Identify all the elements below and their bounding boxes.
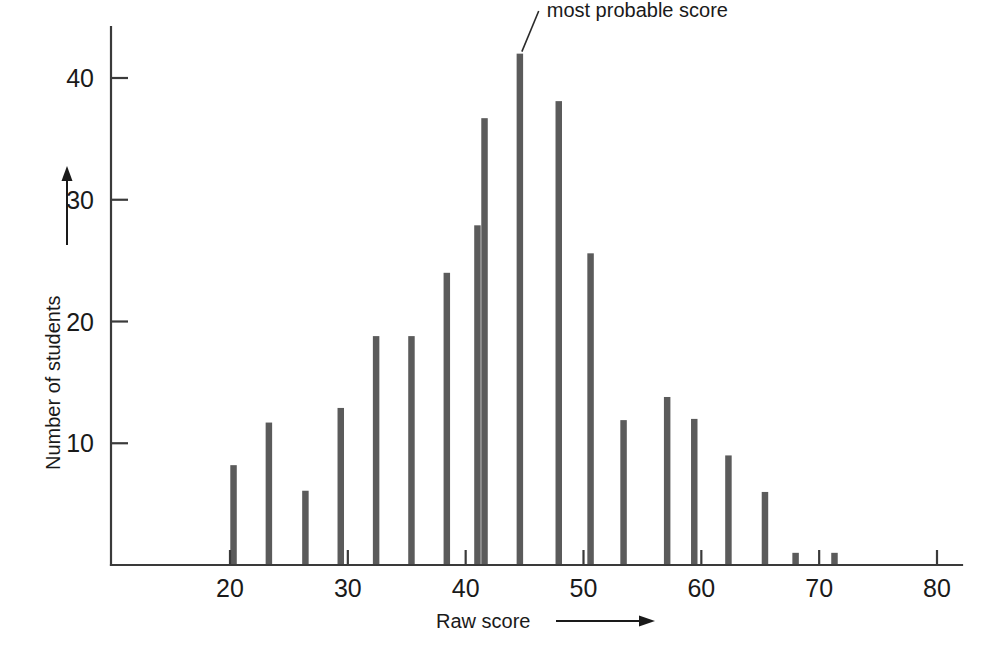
y-axis-label: Number of students — [42, 295, 64, 470]
y-tick-label: 40 — [66, 64, 94, 92]
annotation-most-probable-score: most probable score — [522, 0, 728, 52]
histogram-bar — [587, 253, 593, 565]
histogram-bar — [556, 101, 562, 565]
histogram-bar — [266, 423, 272, 565]
x-axis-label-group: Raw score — [436, 610, 655, 632]
y-tick-label: 30 — [66, 186, 94, 214]
x-tick-label: 40 — [452, 574, 480, 602]
x-tick-label: 60 — [687, 574, 715, 602]
axes — [111, 27, 962, 565]
annotation-label: most probable score — [547, 0, 728, 21]
histogram-bar — [481, 118, 487, 565]
bar-series — [230, 54, 837, 565]
histogram-bar — [444, 273, 450, 565]
y-tick-label: 20 — [66, 308, 94, 336]
histogram-bar — [831, 553, 837, 565]
histogram-bar — [474, 225, 480, 565]
y-tick-label: 10 — [66, 429, 94, 457]
y-axis-ticks: 10203040 — [66, 64, 128, 457]
histogram-bar — [338, 408, 344, 565]
annotation-leader-line — [522, 11, 539, 52]
histogram-bar — [230, 465, 236, 565]
histogram-plot: 10203040 20304050607080 most probable sc… — [0, 0, 1003, 651]
histogram-bar — [373, 336, 379, 565]
histogram-bar — [725, 455, 731, 565]
histogram-bar — [620, 420, 626, 565]
x-tick-label: 50 — [570, 574, 598, 602]
x-axis-arrow-head — [639, 616, 655, 627]
x-axis-label: Raw score — [436, 610, 530, 632]
histogram-bar — [302, 491, 308, 565]
x-tick-label: 20 — [216, 574, 244, 602]
x-tick-label: 30 — [334, 574, 362, 602]
x-axis-ticks: 20304050607080 — [216, 550, 951, 602]
y-axis-arrow-head — [62, 166, 73, 181]
histogram-bar — [792, 553, 798, 565]
x-tick-label: 80 — [923, 574, 951, 602]
chart-container: 10203040 20304050607080 most probable sc… — [0, 0, 1003, 651]
histogram-bar — [517, 54, 523, 565]
histogram-bar — [408, 336, 414, 565]
histogram-bar — [691, 419, 697, 565]
x-tick-label: 70 — [805, 574, 833, 602]
histogram-bar — [762, 492, 768, 565]
histogram-bar — [664, 397, 670, 565]
